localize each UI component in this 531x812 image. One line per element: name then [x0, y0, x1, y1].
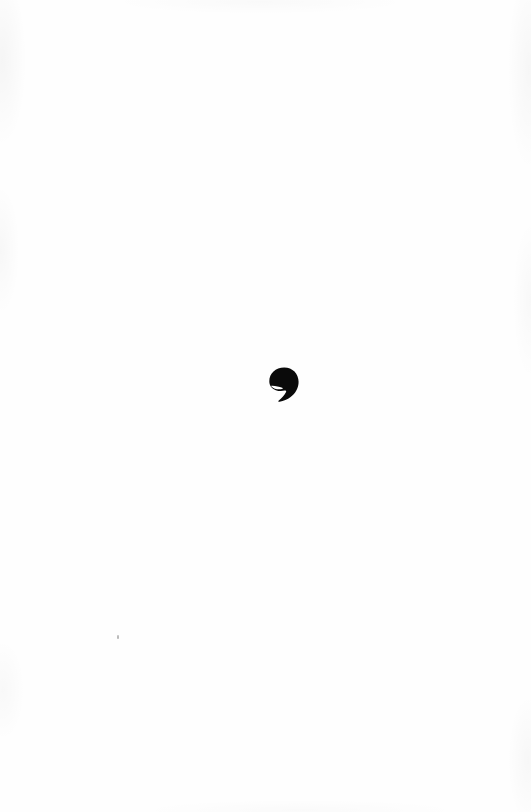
scanned-page: [0, 0, 531, 812]
comma-ink-mark: [269, 367, 299, 402]
dust-speck: [117, 635, 119, 639]
comma-glyph-body: [269, 367, 298, 401]
scan-noise-overlay: [0, 0, 531, 812]
